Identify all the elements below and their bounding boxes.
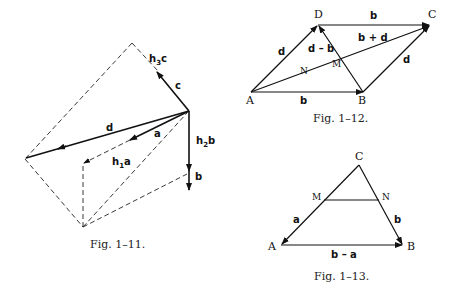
caption-fig-1-12: Fig. 1–12. bbox=[313, 112, 368, 125]
label-b-plus-d: b + d bbox=[358, 32, 388, 43]
CB-vector bbox=[359, 165, 402, 244]
dashed-edge bbox=[83, 113, 187, 227]
label-b: b bbox=[394, 214, 401, 225]
figure-1-13: C M N A B a b b – a Fig. 1–13. bbox=[267, 150, 415, 283]
label-bottom-b: b bbox=[300, 95, 307, 106]
c-vector bbox=[157, 72, 189, 111]
point-N: N bbox=[382, 192, 390, 202]
label-a: a bbox=[293, 214, 300, 225]
dashed-edge bbox=[25, 43, 132, 159]
point-B: B bbox=[358, 94, 366, 107]
AD-vector bbox=[251, 26, 317, 92]
label-right-d: d bbox=[403, 54, 410, 65]
label-c: c bbox=[175, 80, 181, 91]
caption-fig-1-11: Fig. 1–11. bbox=[90, 238, 145, 251]
label-h1a: h1a bbox=[112, 156, 131, 170]
figure-1-12: D C A B M N b b d d d – b b + d Fig. 1–1… bbox=[245, 8, 436, 125]
label-left-d: d bbox=[278, 46, 285, 57]
point-M: M bbox=[312, 192, 321, 202]
label-a: a bbox=[154, 128, 161, 139]
CA-vector bbox=[282, 165, 359, 244]
dashed-edge bbox=[83, 174, 187, 227]
figure-1-11: d a c h3c h2b h1a b Fig. 1–11. bbox=[25, 43, 215, 251]
dashed-edge bbox=[25, 159, 83, 227]
point-B: B bbox=[407, 240, 415, 253]
point-A: A bbox=[267, 240, 277, 253]
point-M: M bbox=[332, 59, 341, 69]
vector-diagrams: d a c h3c h2b h1a b Fig. 1–11. D C A B M… bbox=[0, 0, 457, 294]
label-d: d bbox=[106, 122, 113, 133]
point-C: C bbox=[428, 8, 436, 21]
label-d-minus-b: d – b bbox=[308, 43, 334, 54]
label-b: b bbox=[195, 171, 202, 182]
caption-fig-1-13: Fig. 1–13. bbox=[314, 270, 369, 283]
point-A: A bbox=[245, 94, 255, 107]
point-N: N bbox=[300, 66, 308, 76]
label-b-minus-a: b – a bbox=[331, 249, 357, 260]
point-C: C bbox=[355, 150, 363, 163]
point-D: D bbox=[314, 8, 323, 21]
label-h2b: h2b bbox=[196, 135, 215, 149]
label-top-b: b bbox=[370, 10, 377, 21]
label-h3c: h3c bbox=[149, 53, 167, 67]
